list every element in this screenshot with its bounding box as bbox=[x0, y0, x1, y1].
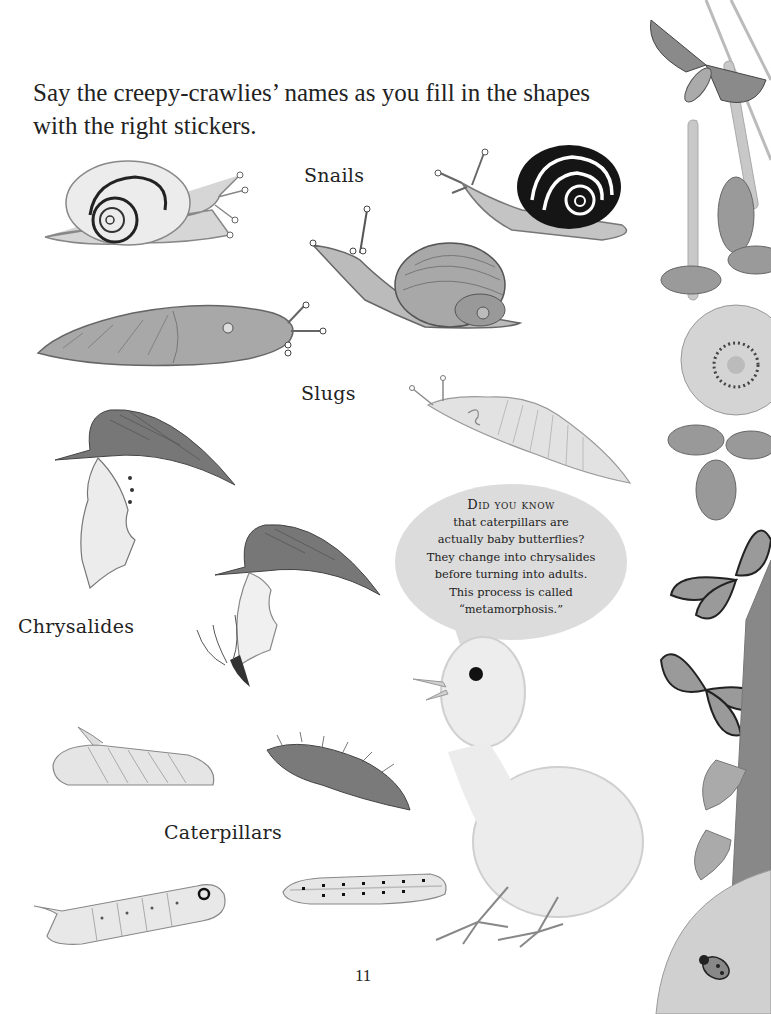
label-caterpillars: Caterpillars bbox=[164, 821, 282, 843]
snail-white-icon[interactable] bbox=[40, 155, 250, 250]
did-you-know-line: before turning into adults. bbox=[395, 566, 627, 584]
caterpillar-spotted-icon[interactable] bbox=[280, 870, 450, 910]
label-slugs: Slugs bbox=[301, 382, 356, 404]
instructions-text: Say the creepy-crawlies’ names as you fi… bbox=[33, 76, 613, 142]
did-you-know-line: They change into chrysalides bbox=[395, 549, 627, 567]
slug-pale-icon[interactable] bbox=[408, 375, 633, 490]
page-number: 11 bbox=[355, 966, 371, 986]
caterpillar-green-icon[interactable] bbox=[32, 876, 230, 948]
slug-leopard-icon[interactable] bbox=[33, 293, 328, 373]
did-you-know-bubble: Did you know that caterpillars are actua… bbox=[395, 484, 627, 640]
caterpillar-hawkmoth-icon[interactable] bbox=[48, 725, 218, 795]
nature-border-decoration bbox=[636, 0, 771, 1014]
caterpillar-hairy-icon[interactable] bbox=[262, 730, 412, 815]
label-snails: Snails bbox=[304, 164, 364, 186]
did-you-know-line: “metamorphosis.” bbox=[395, 601, 627, 619]
butterfly-emerging-chrysalis-icon[interactable] bbox=[185, 515, 380, 695]
snail-garden-icon[interactable] bbox=[305, 205, 530, 330]
did-you-know-line: actually baby butterflies? bbox=[395, 531, 627, 549]
did-you-know-line: This process is called bbox=[395, 584, 627, 602]
did-you-know-line: that caterpillars are bbox=[395, 514, 627, 532]
did-you-know-heading: Did you know bbox=[395, 496, 627, 514]
wild-rose-icon bbox=[681, 305, 771, 415]
label-chrysalides: Chrysalides bbox=[18, 615, 134, 637]
